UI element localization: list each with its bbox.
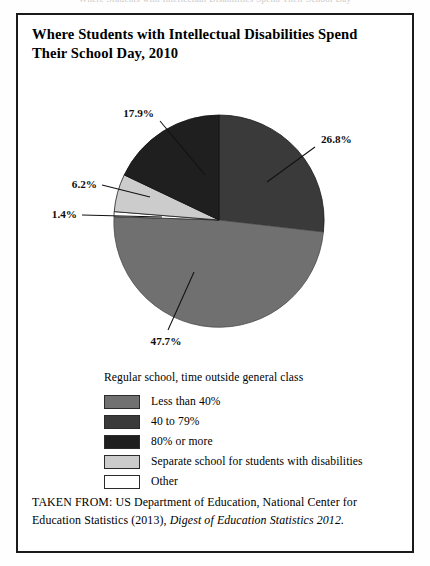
- legend-item-separate-school: Separate school for students with disabi…: [104, 452, 404, 471]
- legend-item-less-than-40: Less than 40%: [104, 392, 404, 411]
- legend-item-40-to-79: 40 to 79%: [104, 412, 404, 431]
- figure-title: Where Students with Intellectual Disabil…: [32, 25, 392, 63]
- source-attribution: TAKEN FROM: US Department of Education, …: [32, 494, 400, 529]
- source-publication-title: Digest of Education Statistics 2012.: [170, 513, 344, 527]
- pie-label-17-9: 17.9%: [123, 107, 154, 119]
- legend-label-other: Other: [151, 475, 178, 489]
- pie-label-47-7: 47.7%: [151, 335, 182, 347]
- legend-label-less-than-40: Less than 40%: [151, 395, 221, 409]
- legend-swatch-less-than-40: [104, 395, 140, 409]
- legend-item-other: Other: [104, 472, 404, 491]
- legend-group-heading: Regular school, time outside general cla…: [104, 370, 404, 385]
- pie-slice-40-to-79: [219, 115, 324, 232]
- legend-label-40-to-79: 40 to 79%: [151, 415, 200, 429]
- legend-swatch-separate-school: [104, 455, 140, 469]
- legend: Regular school, time outside general cla…: [104, 370, 404, 492]
- legend-label-separate-school: Separate school for students with disabi…: [151, 455, 363, 469]
- pie-label-26-8: 26.8%: [321, 133, 352, 145]
- legend-swatch-80-or-more: [104, 435, 140, 449]
- legend-label-80-or-more: 80% or more: [151, 435, 213, 449]
- pie-label-1-4: 1.4%: [52, 208, 77, 220]
- pie-label-6-2: 6.2%: [72, 178, 97, 190]
- legend-item-80-or-more: 80% or more: [104, 432, 404, 451]
- pie-slice-less-than-40: [114, 217, 324, 328]
- clipped-header-text: Where Students with Intellectual Disabil…: [0, 0, 430, 4]
- legend-swatch-other: [104, 475, 140, 489]
- figure-page: Where Students with Intellectual Disabil…: [0, 0, 430, 566]
- pie-chart-svg: 26.8% 17.9% 6.2% 1.4% 47.7%: [18, 87, 412, 362]
- pie-chart: 26.8% 17.9% 6.2% 1.4% 47.7%: [18, 87, 412, 362]
- legend-swatch-40-to-79: [104, 415, 140, 429]
- figure-frame: Where Students with Intellectual Disabil…: [16, 13, 414, 553]
